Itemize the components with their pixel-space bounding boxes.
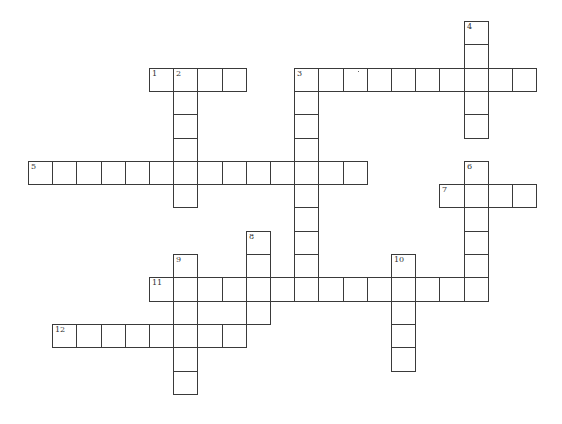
crossword-cell[interactable]	[439, 277, 465, 302]
stray-mark	[358, 71, 359, 72]
crossword-cell[interactable]	[52, 161, 77, 185]
clue-number: 6	[467, 162, 472, 172]
crossword-cell[interactable]	[173, 138, 198, 162]
crossword-cell[interactable]	[173, 277, 198, 302]
crossword-cell[interactable]	[464, 207, 489, 232]
crossword-cell[interactable]	[173, 301, 198, 325]
clue-number: 3	[297, 69, 302, 79]
crossword-cell[interactable]	[149, 324, 174, 348]
crossword-cell[interactable]	[391, 68, 416, 92]
crossword-cell[interactable]	[391, 347, 416, 372]
crossword-cell[interactable]	[367, 277, 392, 302]
crossword-cell[interactable]	[270, 277, 295, 302]
crossword-cell[interactable]	[464, 231, 489, 255]
crossword-cell[interactable]	[173, 371, 198, 395]
crossword-cell[interactable]: 5	[28, 161, 53, 185]
crossword-cell[interactable]	[464, 277, 489, 302]
clue-number: 8	[249, 232, 254, 242]
crossword-cell[interactable]	[246, 254, 271, 278]
crossword-cell[interactable]	[343, 68, 368, 92]
crossword-cell[interactable]	[318, 161, 344, 185]
crossword-cell[interactable]	[222, 161, 247, 185]
crossword-cell[interactable]	[197, 324, 223, 348]
crossword-cell[interactable]	[173, 324, 198, 348]
crossword-cell[interactable]	[512, 68, 537, 92]
clue-number: 7	[442, 185, 447, 195]
crossword-cell[interactable]	[415, 68, 440, 92]
crossword-cell[interactable]	[464, 91, 489, 115]
crossword-cell[interactable]: 9	[173, 254, 198, 278]
crossword-cell[interactable]	[197, 161, 223, 185]
crossword-cell[interactable]	[125, 161, 150, 185]
crossword-cell[interactable]	[343, 161, 368, 185]
clue-number: 11	[152, 278, 162, 288]
crossword-cell[interactable]	[367, 68, 392, 92]
crossword-cell[interactable]	[197, 68, 223, 92]
crossword-cell[interactable]	[246, 301, 271, 325]
crossword-cell[interactable]	[294, 184, 319, 208]
crossword-cell[interactable]	[125, 324, 150, 348]
clue-number: 10	[394, 255, 404, 265]
crossword-cell[interactable]	[294, 277, 319, 302]
crossword-cell[interactable]	[294, 138, 319, 162]
crossword-cell[interactable]	[464, 184, 489, 208]
crossword-cell[interactable]	[415, 277, 440, 302]
crossword-cell[interactable]	[294, 91, 319, 115]
crossword-cell[interactable]	[464, 114, 489, 139]
crossword-cell[interactable]: 11	[149, 277, 174, 302]
crossword-cell[interactable]	[318, 68, 344, 92]
crossword-cell[interactable]	[439, 68, 465, 92]
crossword-cell[interactable]: 4	[464, 21, 489, 45]
crossword-cell[interactable]	[270, 161, 295, 185]
crossword-cell[interactable]	[246, 277, 271, 302]
crossword-board: 123456789101112	[0, 0, 562, 424]
crossword-cell[interactable]	[197, 277, 223, 302]
crossword-cell[interactable]	[173, 114, 198, 139]
crossword-cell[interactable]	[512, 184, 537, 208]
crossword-cell[interactable]: 7	[439, 184, 465, 208]
crossword-cell[interactable]	[173, 161, 198, 185]
crossword-cell[interactable]	[101, 161, 126, 185]
crossword-cell[interactable]	[464, 44, 489, 69]
clue-number: 5	[31, 162, 36, 172]
clue-number: 2	[176, 69, 181, 79]
crossword-cell[interactable]: 1	[149, 68, 174, 92]
crossword-cell[interactable]	[488, 184, 513, 208]
clue-number: 12	[55, 325, 65, 335]
crossword-cell[interactable]	[391, 324, 416, 348]
clue-number: 4	[467, 22, 472, 32]
crossword-cell[interactable]	[173, 91, 198, 115]
crossword-cell[interactable]	[173, 184, 198, 208]
crossword-cell[interactable]: 3	[294, 68, 319, 92]
crossword-cell[interactable]	[464, 68, 489, 92]
crossword-cell[interactable]	[76, 324, 102, 348]
crossword-cell[interactable]	[222, 324, 247, 348]
crossword-cell[interactable]	[391, 277, 416, 302]
clue-number: 9	[176, 255, 181, 265]
crossword-cell[interactable]	[246, 161, 271, 185]
crossword-cell[interactable]	[222, 68, 247, 92]
crossword-cell[interactable]	[343, 277, 368, 302]
crossword-cell[interactable]: 8	[246, 231, 271, 255]
crossword-cell[interactable]	[76, 161, 102, 185]
crossword-cell[interactable]: 10	[391, 254, 416, 278]
crossword-cell[interactable]	[488, 68, 513, 92]
crossword-cell[interactable]	[464, 254, 489, 278]
crossword-cell[interactable]	[222, 277, 247, 302]
crossword-cell[interactable]: 6	[464, 161, 489, 185]
crossword-cell[interactable]: 2	[173, 68, 198, 92]
crossword-cell[interactable]: 12	[52, 324, 77, 348]
crossword-cell[interactable]	[101, 324, 126, 348]
crossword-cell[interactable]	[294, 254, 319, 278]
crossword-cell[interactable]	[391, 301, 416, 325]
crossword-cell[interactable]	[294, 231, 319, 255]
crossword-cell[interactable]	[149, 161, 174, 185]
clue-number: 1	[152, 69, 157, 79]
crossword-cell[interactable]	[318, 277, 344, 302]
crossword-cell[interactable]	[294, 207, 319, 232]
crossword-cell[interactable]	[294, 114, 319, 139]
crossword-cell[interactable]	[294, 161, 319, 185]
crossword-cell[interactable]	[173, 347, 198, 372]
